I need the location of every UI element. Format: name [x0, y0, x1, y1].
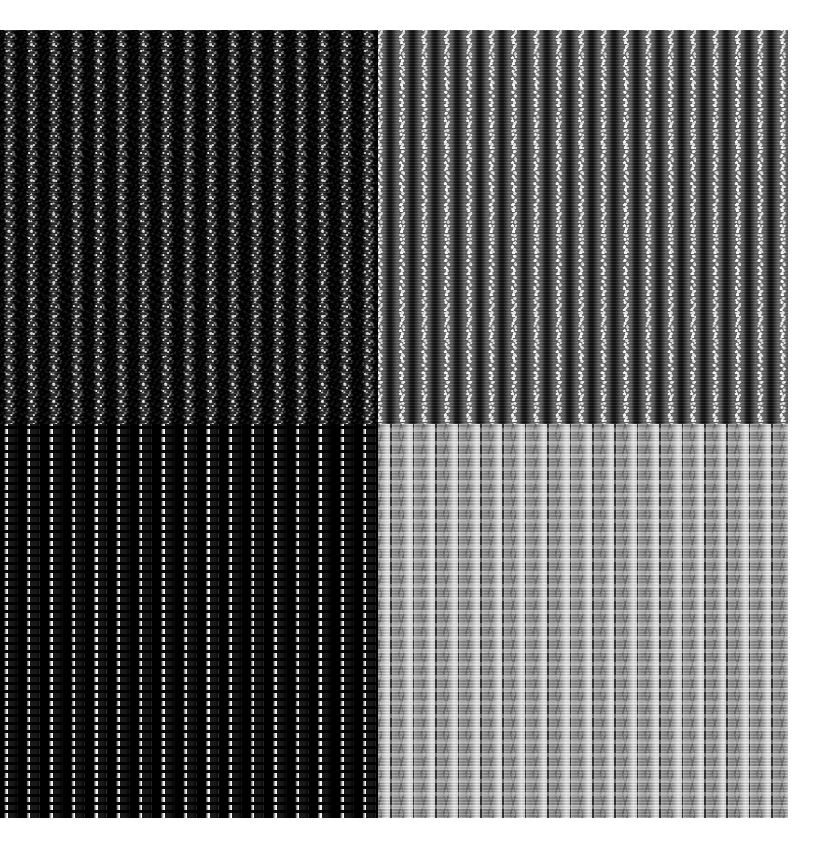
speckle-mask-layer: [0, 30, 378, 424]
texture-montage: [0, 30, 788, 818]
quadrant-bottom-right: [378, 424, 788, 818]
quadrant-bottom-left: [0, 424, 378, 818]
fine-speckle-layer: [378, 30, 788, 424]
quadrant-top-left: [0, 30, 378, 424]
image-canvas: [0, 0, 829, 858]
speckle-mask-layer: [378, 424, 788, 818]
speckle-grain-layer: [0, 424, 378, 818]
quadrant-top-right: [378, 30, 788, 424]
